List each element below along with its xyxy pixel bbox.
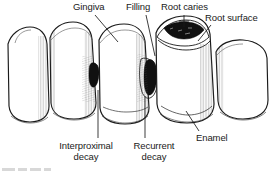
leader-filling — [146, 15, 155, 56]
label-enamel: Enamel — [196, 133, 228, 144]
page-scan-artifact — [0, 166, 278, 175]
tooth-4 — [156, 16, 216, 126]
label-interproximal-decay: Interproximal decay — [50, 141, 122, 162]
label-root-surface: Root surface — [205, 13, 258, 24]
interproximal-decay-lesion — [89, 63, 99, 87]
label-recurrent-decay-line2: decay — [142, 151, 167, 162]
tooth-1 — [8, 27, 50, 123]
dental-caries-figure: Gingiva Filling Root caries Root surface… — [0, 0, 278, 175]
label-root-caries: Root caries — [161, 2, 208, 13]
tooth-5 — [216, 40, 268, 120]
label-interproximal-decay-line2: decay — [74, 151, 99, 162]
label-recurrent-decay-line1: Recurrent — [134, 140, 175, 151]
tooth-2 — [50, 22, 99, 120]
label-gingiva: Gingiva — [73, 2, 105, 13]
label-filling: Filling — [126, 2, 150, 13]
label-recurrent-decay: Recurrent decay — [124, 141, 184, 162]
tooth-3 — [99, 24, 158, 126]
label-interproximal-decay-line1: Interproximal — [59, 140, 113, 151]
